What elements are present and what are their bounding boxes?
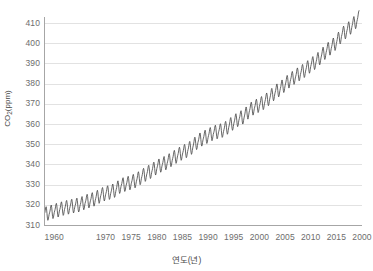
y-axis-title-unit: (ppm) bbox=[3, 90, 12, 111]
x-axis-tick-label: 1960 bbox=[45, 232, 64, 242]
x-axis-tick-label: 2015 bbox=[327, 232, 346, 242]
y-axis-tick-label: 310 bbox=[0, 221, 40, 230]
x-axis-tick-label: 2010 bbox=[301, 232, 320, 242]
x-axis-tick-label: 1985 bbox=[173, 232, 192, 242]
x-axis-tick-label: 1995 bbox=[224, 232, 243, 242]
y-axis-tick-label: 390 bbox=[0, 59, 40, 68]
x-axis-tick-label: 1970 bbox=[96, 232, 115, 242]
co2-series-line bbox=[45, 11, 359, 221]
x-axis-tick-label: 2000 bbox=[352, 232, 371, 242]
x-axis-line bbox=[44, 225, 362, 226]
x-axis-tick-label: 1975 bbox=[122, 232, 141, 242]
series-canvas bbox=[44, 17, 362, 225]
y-axis-tick-label: 340 bbox=[0, 160, 40, 169]
x-axis-tick-label: 2005 bbox=[275, 232, 294, 242]
co2-line-chart: 310320330340350360370380390400410 CO2(pp… bbox=[0, 0, 373, 271]
y-axis-tick-label: 330 bbox=[0, 180, 40, 189]
x-axis-title: 연도(년) bbox=[0, 253, 373, 265]
y-axis-tick-label: 320 bbox=[0, 200, 40, 209]
x-axis-tick-label: 1990 bbox=[198, 232, 217, 242]
y-axis-title-subscript: 2 bbox=[5, 111, 12, 115]
y-axis-title: CO2(ppm) bbox=[3, 74, 12, 144]
x-axis-tick-label: 1980 bbox=[147, 232, 166, 242]
y-axis-line bbox=[44, 17, 45, 226]
y-axis-title-base: CO bbox=[3, 115, 12, 127]
x-axis-tick-label: 2000 bbox=[250, 232, 269, 242]
plot-area bbox=[44, 17, 362, 225]
y-axis-tick-label: 400 bbox=[0, 39, 40, 48]
y-axis-tick-label: 410 bbox=[0, 19, 40, 28]
